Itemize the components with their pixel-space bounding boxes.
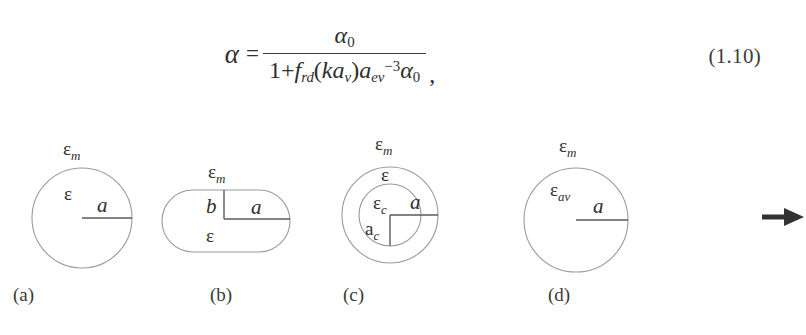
den-a-first: a bbox=[333, 57, 345, 83]
panel-c: εm ε εc a ac (c) bbox=[305, 120, 510, 335]
panel-b-graphic: εm b a ε bbox=[150, 120, 310, 310]
den-k: k bbox=[322, 57, 333, 83]
den-f-subscript: rd bbox=[301, 69, 314, 85]
den-alpha: α bbox=[400, 57, 413, 83]
panel-c-ac-label: ac bbox=[365, 218, 379, 243]
equation-numerator: α0 bbox=[325, 22, 365, 53]
panel-d-radius-label: a bbox=[593, 194, 604, 218]
panel-b-caption: (b) bbox=[210, 284, 232, 306]
panel-b-a-label: a bbox=[251, 195, 262, 219]
den-open-paren: ( bbox=[314, 57, 322, 83]
equation-block: α = α0 1+frd(kav)aev−3α0 , (1.10) bbox=[0, 14, 779, 94]
den-a-second-superscript: −3 bbox=[384, 58, 400, 74]
panel-d-caption: (d) bbox=[548, 284, 570, 306]
panel-b-b-label: b bbox=[206, 194, 217, 218]
panel-c-core-epsilon: εc bbox=[373, 192, 387, 217]
panel-c-a-label: a bbox=[410, 190, 421, 214]
panel-d-graphic: εm εav a bbox=[495, 120, 675, 310]
panel-b-inner-epsilon: ε bbox=[206, 225, 214, 246]
panel-a-medium-epsilon: εm bbox=[63, 138, 80, 163]
equation-lhs-alpha: α bbox=[225, 41, 242, 68]
den-a-second-subscript: ev bbox=[371, 69, 384, 85]
panel-a-caption: (a) bbox=[13, 284, 34, 306]
panel-b-medium-epsilon: εm bbox=[208, 161, 225, 186]
den-a-second: a bbox=[359, 57, 371, 83]
panel-d-medium-epsilon: εm bbox=[559, 135, 576, 160]
panel-c-shell-epsilon: ε bbox=[381, 164, 389, 185]
den-one-plus: 1+ bbox=[269, 57, 295, 83]
panel-d-inner-epsilon: εav bbox=[550, 179, 570, 204]
den-alpha-subscript: 0 bbox=[413, 69, 420, 85]
panel-a-radius-label: a bbox=[97, 193, 108, 217]
equation-number: (1.10) bbox=[708, 44, 761, 69]
panel-a-graphic: εm ε a bbox=[0, 120, 160, 310]
panel-c-medium-epsilon: εm bbox=[375, 133, 392, 158]
panel-c-graphic: εm ε εc a ac bbox=[305, 120, 510, 310]
panel-b: εm b a ε (b) bbox=[150, 120, 310, 335]
panel-b-stadium bbox=[162, 190, 290, 252]
figure-row: εm ε a (a) εm b a ε (b) εm ε εc bbox=[0, 120, 779, 335]
equation-expression: α = α0 1+frd(kav)aev−3α0 , bbox=[0, 14, 660, 94]
transformation-arrow bbox=[760, 206, 806, 228]
panel-c-caption: (c) bbox=[343, 284, 364, 306]
panel-a: εm ε a (a) bbox=[0, 120, 160, 335]
numerator-subscript: 0 bbox=[347, 34, 354, 50]
numerator-alpha: α bbox=[335, 22, 348, 48]
panel-d: εm εav a (d) bbox=[495, 120, 675, 335]
den-close-paren: ) bbox=[351, 57, 359, 83]
equation-denominator: 1+frd(kav)aev−3α0 bbox=[263, 54, 426, 86]
equation-trailing-comma: , bbox=[426, 61, 435, 94]
panel-a-inner-epsilon: ε bbox=[64, 183, 72, 204]
equation-fraction: α0 1+frd(kav)aev−3α0 bbox=[263, 22, 426, 86]
arrow-right-icon bbox=[760, 206, 806, 228]
equation-equals-sign: = bbox=[242, 41, 263, 67]
